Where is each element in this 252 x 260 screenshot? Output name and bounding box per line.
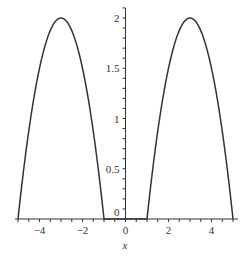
x-tick-label: 4 — [209, 224, 215, 236]
y-tick-label: 1.5 — [106, 62, 120, 74]
x-tick-label: −2 — [77, 224, 89, 236]
y-tick-label: 1 — [114, 113, 120, 125]
x-axis-title: x — [122, 239, 128, 251]
y-tick-label: 0 — [114, 206, 120, 218]
x-tick-label: −4 — [34, 224, 46, 236]
x-tick-label: 2 — [166, 224, 172, 236]
x-tick-label: 0 — [123, 224, 129, 236]
tick-labels: −4−202400.511.52 — [34, 12, 215, 236]
y-tick-label: 2 — [114, 12, 120, 24]
plot-area: −4−202400.511.52 x — [0, 0, 252, 260]
y-tick-label: 0.5 — [106, 163, 120, 175]
